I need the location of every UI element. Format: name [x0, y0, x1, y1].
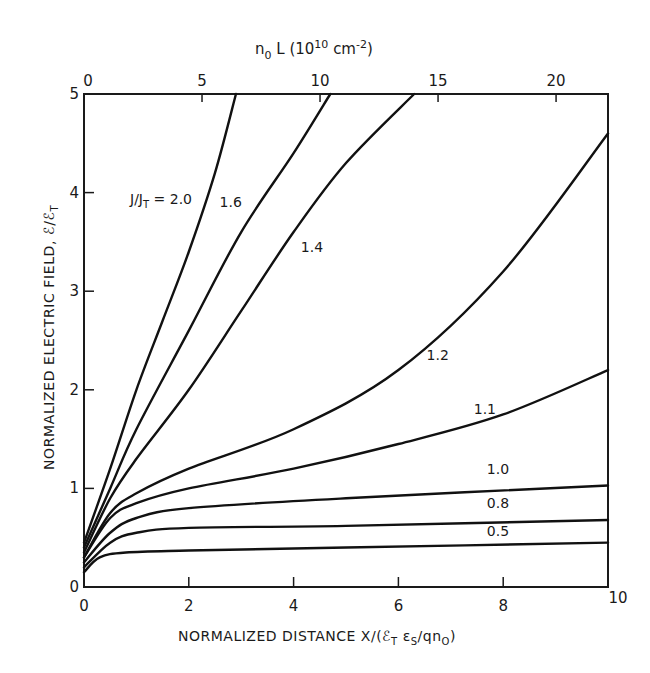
x-tick-label: 10 — [608, 589, 627, 607]
curve-1-4 — [84, 94, 414, 552]
curve-label-1-0: 1.0 — [487, 461, 509, 477]
electric-field-chart: 0246810012345051015201.61.41.21.11.00.80… — [0, 0, 650, 673]
curve-label-2-0: J/JT = 2.0 — [129, 191, 192, 210]
top-x-tick-label: 5 — [197, 72, 207, 90]
curve-label-1-2: 1.2 — [427, 347, 449, 363]
y-tick-label: 2 — [69, 381, 79, 399]
x-tick-label: 4 — [289, 597, 299, 615]
curve-label-1-1: 1.1 — [474, 401, 496, 417]
top-axis-title: n0 L (1010 cm-2) — [255, 38, 373, 62]
top-x-tick-label: 0 — [83, 72, 93, 90]
y-tick-label: 0 — [69, 578, 79, 596]
x-tick-label: 8 — [498, 597, 508, 615]
plot-area: 0246810012345051015201.61.41.21.11.00.80… — [69, 72, 627, 615]
curve-label-0-5: 0.5 — [487, 523, 509, 539]
top-x-tick-label: 15 — [429, 72, 448, 90]
y-tick-label: 4 — [69, 184, 79, 202]
y-tick-label: 3 — [69, 282, 79, 300]
x-tick-label: 0 — [79, 597, 89, 615]
plot-frame — [84, 94, 608, 587]
y-axis-title: NORMALIZED ELECTRIC FIELD, ℰ/ℰT — [41, 204, 60, 470]
y-tick-label: 5 — [69, 85, 79, 103]
curve-label-1-6: 1.6 — [220, 194, 242, 210]
curve-2-0 — [84, 94, 236, 543]
curve-label-0-8: 0.8 — [487, 495, 509, 511]
x-tick-label: 2 — [184, 597, 194, 615]
x-axis-title: NORMALIZED DISTANCE X/(ℰT εS/qnO) — [178, 628, 456, 647]
top-x-tick-label: 20 — [547, 72, 566, 90]
curve-label-1-4: 1.4 — [301, 239, 323, 255]
top-x-tick-label: 10 — [310, 72, 329, 90]
curve-0-5 — [84, 543, 608, 573]
x-tick-label: 6 — [394, 597, 404, 615]
y-tick-label: 1 — [69, 479, 79, 497]
